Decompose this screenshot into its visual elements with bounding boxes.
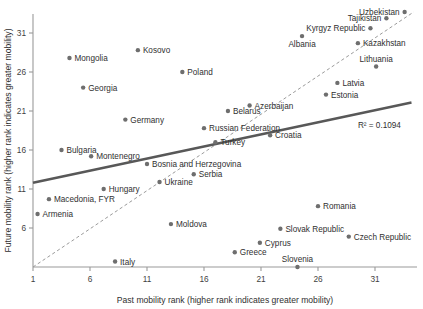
data-point-marker[interactable] [47,197,51,201]
data-point-marker[interactable] [335,81,339,85]
data-point-marker[interactable] [233,250,237,254]
data-point-label: Cyprus [265,239,291,248]
data-point-label: Bulgaria [67,146,97,155]
y-tick-label: 16 [17,145,27,155]
data-point[interactable]: Bulgaria [59,146,97,155]
data-point-marker[interactable] [368,26,372,30]
data-point-label: Armenia [43,210,74,219]
data-point-marker[interactable] [59,148,63,152]
data-point-marker[interactable] [89,154,93,158]
data-point-marker[interactable] [136,48,140,52]
data-point-label: Kyrgyz Republic [306,24,365,33]
data-point[interactable]: Greece [233,248,267,257]
data-point-marker[interactable] [192,172,196,176]
scatter-chart: 61116212631161116212631 UzbekistanTajiki… [0,0,423,309]
data-point[interactable]: Georgia [81,84,118,93]
y-axis-title: Future mobility rank (higher rank indica… [3,28,13,252]
y-tick-label: 11 [17,184,26,194]
x-tick-label: 6 [88,274,93,284]
data-point-marker[interactable] [300,34,304,38]
data-point[interactable]: Russian Federation [202,124,281,133]
data-point-marker[interactable] [145,162,149,166]
data-point-marker[interactable] [278,227,282,231]
data-point-marker[interactable] [316,204,320,208]
data-point-label: Romania [323,202,356,211]
data-point[interactable]: Macedonia, FYR [47,195,115,204]
data-point[interactable]: Czech Republic [347,233,412,242]
data-point-label: Russian Federation [209,124,280,133]
data-point[interactable]: Kazakhstan [356,39,406,48]
data-point[interactable]: Bosnia and Herzegovina [145,160,242,169]
data-point[interactable]: Armenia [35,210,73,219]
data-point-label: Belarus [233,107,261,116]
data-point-marker[interactable] [101,187,105,191]
y-tick-label: 26 [17,67,27,77]
data-point[interactable]: Cyprus [258,239,291,248]
data-point[interactable]: Poland [180,68,213,77]
data-point-marker[interactable] [81,85,85,89]
data-point-label: Kazakhstan [363,39,406,48]
data-point-marker[interactable] [295,265,299,269]
data-point-label: Latvia [342,79,364,88]
data-point[interactable]: Belarus [226,107,261,116]
data-point[interactable]: Mongolia [67,54,108,63]
data-point-label: Czech Republic [354,233,411,242]
data-point-marker[interactable] [113,259,117,263]
data-point-marker[interactable] [213,140,217,144]
data-point-marker[interactable] [180,70,184,74]
x-axis-title: Past mobility rank (higher rank indicate… [117,295,334,305]
data-point-marker[interactable] [356,41,360,45]
plot-area: 61116212631161116212631 UzbekistanTajiki… [0,0,423,309]
data-point-label: Hungary [109,185,141,194]
data-point-marker[interactable] [202,126,206,130]
data-point-label: Georgia [88,84,118,93]
r-squared: R² = 0.1094 [358,121,401,130]
data-point-marker[interactable] [157,180,161,184]
x-tick-label: 21 [256,274,266,284]
data-point[interactable]: Italy [113,258,136,267]
data-point-marker[interactable] [35,212,39,216]
data-point-label: Turkey [220,138,246,147]
data-point-marker[interactable] [384,16,388,20]
data-point[interactable]: Moldova [169,220,208,229]
data-point-label: Greece [240,248,267,257]
data-point[interactable]: Montenegro [89,152,140,161]
data-point-marker[interactable] [402,10,406,14]
data-point[interactable]: Germany [123,116,165,125]
data-point[interactable]: Romania [316,202,356,211]
data-point-label: Kosovo [143,46,171,55]
x-tick-label: 31 [370,274,380,284]
data-point-marker[interactable] [268,133,272,137]
data-point[interactable]: Albania [288,34,316,49]
data-point-label: Poland [187,68,213,77]
data-point[interactable]: Hungary [101,185,140,194]
data-point-marker[interactable] [169,222,173,226]
data-point[interactable]: Estonia [324,91,359,100]
data-point[interactable]: Kyrgyz Republic [306,24,372,33]
data-point[interactable]: Lithuania [360,55,394,69]
data-point[interactable]: Ukraine [157,178,193,187]
y-tick-label: 6 [21,223,26,233]
data-point-label: Germany [130,116,165,125]
data-point-marker[interactable] [67,56,71,60]
data-point[interactable]: Kosovo [136,46,171,55]
data-point[interactable]: Latvia [335,79,364,88]
data-point-label: Croatia [275,131,302,140]
data-point[interactable]: Slovak Republic [278,225,344,234]
data-point-label: Albania [288,40,316,49]
y-tick-label: 21 [17,106,27,116]
data-point[interactable]: Serbia [192,170,223,179]
data-point-marker[interactable] [226,109,230,113]
data-point-label: Moldova [176,220,207,229]
data-point-label: Macedonia, FYR [54,195,115,204]
x-tick-label: 11 [143,274,152,284]
data-point-marker[interactable] [374,64,378,68]
data-point-label: Montenegro [96,152,140,161]
data-point-label: Italy [120,258,136,267]
data-point-marker[interactable] [258,241,262,245]
annotations-layer: R² = 0.1094 [358,121,401,130]
data-point-marker[interactable] [123,117,127,121]
data-point-marker[interactable] [347,234,351,238]
data-point-marker[interactable] [324,92,328,96]
x-tick-label: 1 [31,274,36,284]
